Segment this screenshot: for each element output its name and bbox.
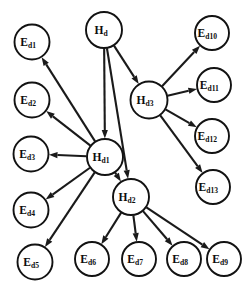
- node-Ed10[interactable]: Ed10: [195, 16, 229, 50]
- arrow-head-icon: [101, 235, 108, 244]
- node-Ed2[interactable]: Ed2: [15, 83, 50, 118]
- node-Ed12[interactable]: Ed12: [195, 119, 229, 153]
- node-Ed1[interactable]: Ed1: [15, 25, 50, 60]
- edge-line: [53, 168, 90, 195]
- arrow-head-icon: [49, 152, 58, 158]
- node-Ed8[interactable]: Ed8: [167, 242, 201, 276]
- edge-Hd1-to-Ed5: [45, 172, 95, 247]
- edge-line: [133, 215, 135, 233]
- edge-line: [162, 52, 194, 86]
- edge-line: [53, 116, 91, 145]
- edge-line: [168, 91, 189, 96]
- arrow-head-icon: [132, 75, 139, 84]
- node-label-subscript: d3: [146, 98, 154, 107]
- node-label-subscript: d9: [220, 257, 228, 266]
- edge-line: [106, 213, 121, 237]
- node-label-subscript: d10: [205, 31, 217, 40]
- arrow-head-icon: [42, 57, 49, 66]
- edge-Hd2-to-Ed6: [101, 213, 121, 245]
- node-label-subscript: d11: [207, 83, 219, 92]
- arrow-head-icon: [102, 130, 108, 139]
- node-label-subscript: d1: [28, 40, 36, 49]
- node-Ed6[interactable]: Ed6: [75, 242, 109, 276]
- node-label-subscript: d7: [135, 257, 143, 266]
- node-label-subscript: d4: [27, 208, 35, 217]
- edge-line: [143, 211, 167, 239]
- edge-line: [57, 155, 86, 156]
- node-label-subscript: d2: [128, 195, 136, 204]
- node-Ed3[interactable]: Ed3: [14, 137, 49, 172]
- node-label-subscript: d8: [180, 257, 188, 266]
- node-Hd[interactable]: Hd: [86, 12, 122, 48]
- edge-Hd-to-Hd1: [102, 49, 108, 139]
- edge-Hd2-to-Ed8: [143, 211, 173, 246]
- edge-Hd1-to-Ed2: [46, 111, 90, 146]
- graph-svg: HdHd1Hd2Hd3Ed1Ed2Ed3Ed4Ed5Ed6Ed7Ed8Ed9Ed…: [0, 0, 247, 298]
- node-Hd2[interactable]: Hd2: [113, 179, 149, 215]
- node-Hd3[interactable]: Hd3: [131, 82, 168, 119]
- edge-Hd1-to-Ed4: [46, 168, 90, 200]
- node-Ed9[interactable]: Ed9: [207, 242, 241, 276]
- edge-Hd3-to-Ed12: [166, 109, 197, 127]
- arrow-head-icon: [188, 120, 197, 127]
- edges-layer: [42, 46, 210, 250]
- edge-Hd1-to-Hd2: [114, 173, 121, 182]
- node-label-subscript: d5: [31, 260, 39, 269]
- node-label-subscript: d6: [88, 257, 96, 266]
- node-Ed11[interactable]: Ed11: [197, 68, 231, 102]
- edge-line: [114, 46, 134, 77]
- arrow-head-icon: [133, 233, 139, 242]
- node-Hd1[interactable]: Hd1: [87, 139, 123, 175]
- node-Ed13[interactable]: Ed13: [196, 170, 230, 204]
- edge-Hd2-to-Ed7: [133, 215, 139, 241]
- node-Ed5[interactable]: Ed5: [18, 245, 53, 280]
- edge-Hd3-to-Ed11: [168, 88, 197, 96]
- diagram-canvas: HdHd1Hd2Hd3Ed1Ed2Ed3Ed4Ed5Ed6Ed7Ed8Ed9Ed…: [0, 0, 247, 298]
- arrow-head-icon: [124, 170, 130, 179]
- edge-Hd1-to-Ed3: [49, 152, 87, 158]
- edge-line: [104, 49, 105, 131]
- arrow-head-icon: [188, 88, 197, 94]
- node-Ed7[interactable]: Ed7: [122, 242, 156, 276]
- edge-Hd-to-Hd3: [114, 46, 139, 84]
- arrow-head-icon: [114, 173, 121, 182]
- node-label-subscript: d1: [102, 155, 110, 164]
- node-label-subscript: d12: [205, 134, 217, 143]
- edge-line: [50, 172, 95, 240]
- node-label-subscript: d3: [27, 152, 35, 161]
- node-label-subscript: d2: [28, 98, 36, 107]
- edge-Hd3-to-Ed10: [162, 46, 200, 86]
- node-Ed4[interactable]: Ed4: [14, 193, 49, 228]
- edge-line: [166, 109, 190, 123]
- node-label-subscript: d13: [206, 185, 218, 194]
